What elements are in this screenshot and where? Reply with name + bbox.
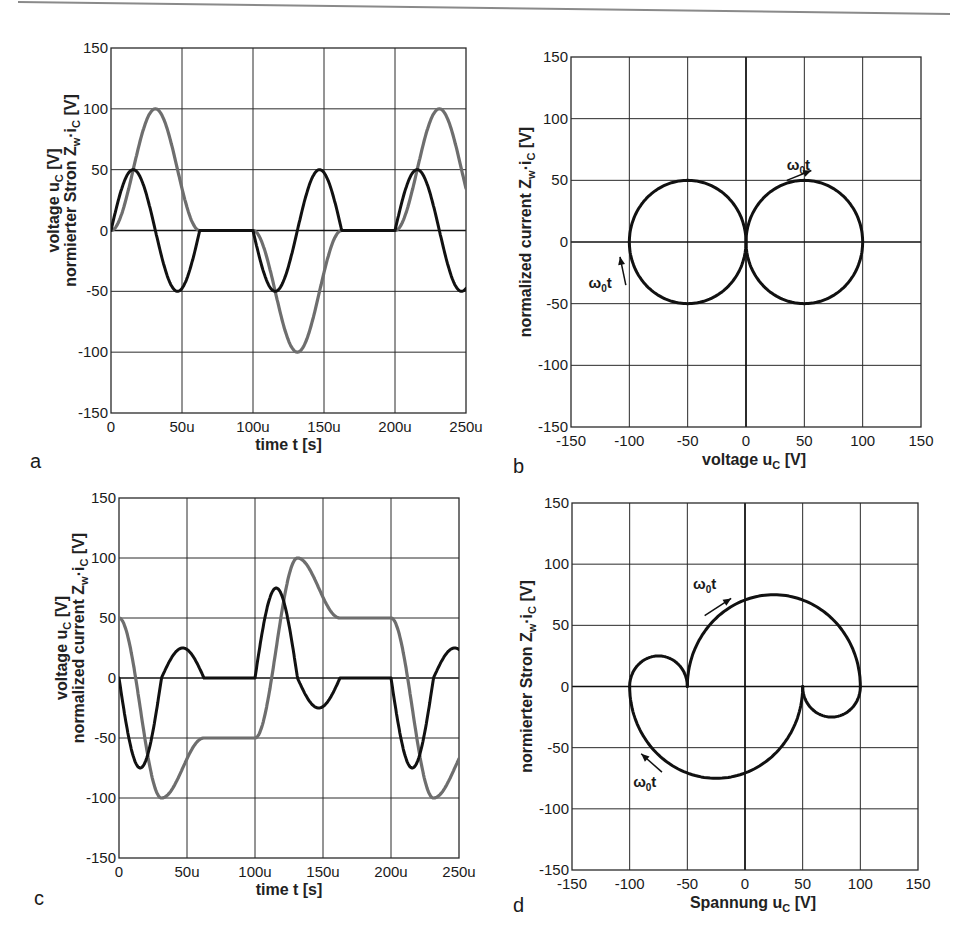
y-tick-label: -100 [539, 800, 569, 817]
y-tick-label: -50 [86, 282, 108, 299]
y-axis-label-text: normierter Stron Zw·iC [V] [518, 580, 538, 773]
x-tick-label: 150 [905, 875, 930, 892]
y-tick-label: 50 [91, 161, 108, 178]
y-tick-label: -100 [538, 356, 568, 373]
y-tick-label: -150 [538, 418, 568, 435]
x-tick-label: -100 [615, 875, 645, 892]
y-tick-label: 0 [561, 678, 569, 695]
trajectory-arc-4 [630, 656, 688, 687]
x-tick-label: 250u [442, 863, 475, 880]
y-axis-label: normierter Stron Zw·iC [V] [518, 580, 538, 773]
x-tick-label: 50u [169, 418, 194, 435]
y-axis-label-line2: normierter Stron Zw·iC [V] [62, 94, 82, 287]
trajectory-arc-2 [803, 687, 861, 718]
panel-label-c: c [34, 887, 44, 909]
y-tick-label: -50 [547, 739, 569, 756]
chart-panel-b: -150-100-50050100150150100500-50-100-150… [513, 48, 934, 477]
x-tick-label: -100 [614, 432, 644, 449]
panel-label-d: d [513, 894, 524, 916]
x-axis-label: voltage uC [V] [702, 451, 806, 471]
omega0t-annotation-2-label: ω0t [589, 274, 612, 294]
x-tick-label: 150 [908, 432, 933, 449]
y-tick-label: 0 [100, 222, 108, 239]
figure-canvas: 050u100u150u200u250u150100500-50-100-150… [0, 0, 959, 943]
trajectory-arc-1 [687, 595, 860, 687]
trajectory-arc-3 [630, 687, 803, 779]
chart-panel-a: 050u100u150u200u250u150100500-50-100-150… [30, 39, 483, 472]
omega0t-annotation-1-label: ω0t [693, 575, 716, 595]
y-tick-label: 150 [83, 39, 108, 56]
y-axis-label-line2: normalized current Zw·iC [V] [70, 533, 90, 743]
y-tick-label: 50 [552, 616, 569, 633]
panel-label-b: b [513, 455, 524, 477]
y-tick-label: 150 [543, 48, 568, 65]
y-axis-label-current: normierter Stron Zw·iC [V] [62, 94, 82, 287]
x-tick-label: 0 [107, 418, 115, 435]
y-tick-label: -150 [86, 849, 116, 866]
chart-panel-c: 050u100u150u200u250u150100500-50-100-150… [34, 489, 476, 909]
y-tick-label: 100 [544, 555, 569, 572]
x-tick-label: -50 [676, 875, 698, 892]
x-axis-label: time t [s] [255, 436, 322, 453]
x-axis-label: Spannung uC [V] [690, 894, 816, 914]
omega0t-annotation-1-arrow-head [723, 598, 732, 605]
y-tick-label: 0 [560, 233, 568, 250]
x-tick-label: 0 [741, 875, 749, 892]
chart-panel-d: -150-100-50050100150150100500-50-100-150… [513, 494, 931, 916]
y-tick-label: -100 [86, 789, 116, 806]
x-axis-label: time t [s] [256, 881, 323, 898]
x-tick-label: 100u [238, 863, 271, 880]
y-tick-label: -50 [94, 729, 116, 746]
y-tick-label: 100 [543, 110, 568, 127]
y-tick-label: 100 [91, 549, 116, 566]
x-tick-label: 150u [307, 418, 340, 435]
y-axis-label-text: normalized current Zw·iC [V] [517, 127, 537, 337]
x-tick-label: 50 [796, 432, 813, 449]
x-tick-label: 150u [306, 863, 339, 880]
y-tick-label: 150 [91, 489, 116, 506]
y-tick-label: 150 [544, 494, 569, 511]
omega0t-annotation-2-label: ω0t [633, 773, 656, 793]
y-tick-label: 0 [108, 669, 116, 686]
x-tick-label: 100 [850, 432, 875, 449]
y-tick-label: -150 [539, 861, 569, 878]
x-tick-label: 100u [236, 418, 269, 435]
panel-label-a: a [30, 450, 42, 472]
x-tick-label: 200u [374, 863, 407, 880]
y-axis-label: normalized current Zw·iC [V] [517, 127, 537, 337]
y-tick-label: 50 [99, 609, 116, 626]
x-tick-label: 50 [794, 875, 811, 892]
y-tick-label: -150 [78, 404, 108, 421]
x-tick-label: 0 [742, 432, 750, 449]
y-tick-label: -50 [546, 295, 568, 312]
x-tick-label: 0 [115, 863, 123, 880]
y-tick-label: -100 [78, 343, 108, 360]
y-axis-label-current: normalized current Zw·iC [V] [70, 533, 90, 743]
y-tick-label: 50 [551, 171, 568, 188]
x-tick-label: 100 [848, 875, 873, 892]
page-header-rule [18, 2, 950, 14]
y-tick-label: 100 [83, 100, 108, 117]
x-tick-label: 50u [174, 863, 199, 880]
x-tick-label: -50 [677, 432, 699, 449]
omega0t-annotation-2-arrow-head [618, 257, 625, 266]
x-tick-label: 250u [449, 418, 482, 435]
x-tick-label: 200u [378, 418, 411, 435]
